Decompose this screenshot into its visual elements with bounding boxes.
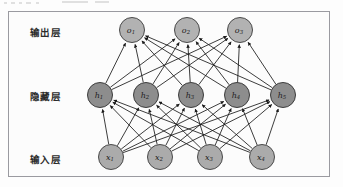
edge-x4-to-h4 [243,109,258,145]
edge-h5-to-o3 [248,42,276,84]
edge-h1-to-o1 [106,43,126,83]
node-x3: x3 [198,145,223,170]
edge-h3-to-o3 [199,42,231,85]
edge-x3-to-h1 [113,102,199,150]
node-x2: x2 [148,145,173,170]
node-h4: h4 [225,83,250,108]
node-h3: h3 [179,83,204,108]
node-h5: h5 [271,83,296,108]
edge-x1-to-h3 [121,104,179,149]
edge-h4-to-o1 [145,38,227,88]
node-h1: h1 [88,83,113,108]
edge-h2-to-o3 [157,38,228,87]
edge-h3-to-o2 [188,45,190,82]
node-x1: x1 [99,145,124,170]
node-h2: h2 [134,83,159,108]
edge-x4-to-h5 [266,109,278,145]
node-x4: x4 [250,145,275,170]
edge-h5-to-o1 [146,36,272,90]
edge-h4-to-o2 [196,42,229,85]
node-o3: o3 [228,18,253,43]
node-o2: o2 [175,18,200,43]
edge-x1-to-h2 [117,108,138,146]
network-graph: o1o2o3h1h2h3h4h5x1x2x3x4 [0,0,343,187]
node-o1: o1 [120,18,145,43]
edge-x4-to-h1 [114,100,250,152]
diagram-page: 输出层 隐藏层 输入层 o1o2o3h1h2h3h4h5x1x2x3x4 [0,0,343,187]
edge-x1-to-h1 [103,109,109,144]
